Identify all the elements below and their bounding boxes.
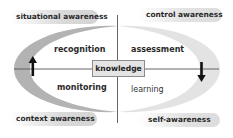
monitoring-label: monitoring bbox=[57, 83, 107, 92]
situational-awareness-label: situational awareness bbox=[10, 10, 98, 24]
assessment-label: assessment bbox=[131, 45, 184, 54]
knowledge-awareness-diagram: situational awareness control awareness … bbox=[0, 0, 233, 138]
context-awareness-label: context awareness bbox=[10, 112, 97, 126]
knowledge-box: knowledge bbox=[92, 60, 145, 77]
learning-label: learning bbox=[131, 85, 164, 94]
recognition-label: recognition bbox=[54, 45, 106, 54]
self-awareness-label: self-awareness bbox=[138, 113, 220, 127]
control-awareness-label: control awareness bbox=[138, 8, 222, 22]
